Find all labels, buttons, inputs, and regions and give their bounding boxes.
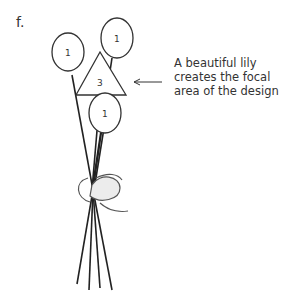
circle-left-number: 1 <box>65 48 71 58</box>
circle-top-right-number: 1 <box>114 34 120 44</box>
caption-line: creates the focal <box>174 70 287 84</box>
caption-line: A beautiful lily <box>174 56 287 70</box>
triangle-number: 3 <box>97 78 103 88</box>
circle-bottom-number: 1 <box>102 109 108 119</box>
caption: A beautiful lily creates the focal area … <box>174 56 287 98</box>
caption-line: area of the design <box>174 84 287 98</box>
flower-diagram: 1 1 3 1 <box>0 0 287 302</box>
arrow-left-icon <box>134 79 162 85</box>
ribbon-bow <box>78 174 128 211</box>
